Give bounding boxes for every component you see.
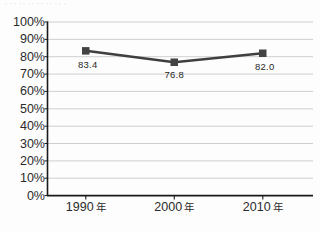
data-point-marker xyxy=(82,47,90,55)
line-chart xyxy=(0,0,320,232)
x-axis-tick-label: 1990年 xyxy=(66,201,106,214)
data-point-value-label: 76.8 xyxy=(165,70,184,80)
data-point-value-label: 82.0 xyxy=(255,62,274,72)
chart-page: ．．．．．．．．．．．．．． 100%90%80%70%60%50%40%30%… xyxy=(0,0,320,232)
x-axis-tick-label: 2000年 xyxy=(154,201,194,214)
x-axis-tick-label: 2010年 xyxy=(243,201,283,214)
data-point-marker xyxy=(259,50,267,58)
data-point-value-label: 83.4 xyxy=(78,60,97,70)
data-point-marker xyxy=(171,59,179,67)
